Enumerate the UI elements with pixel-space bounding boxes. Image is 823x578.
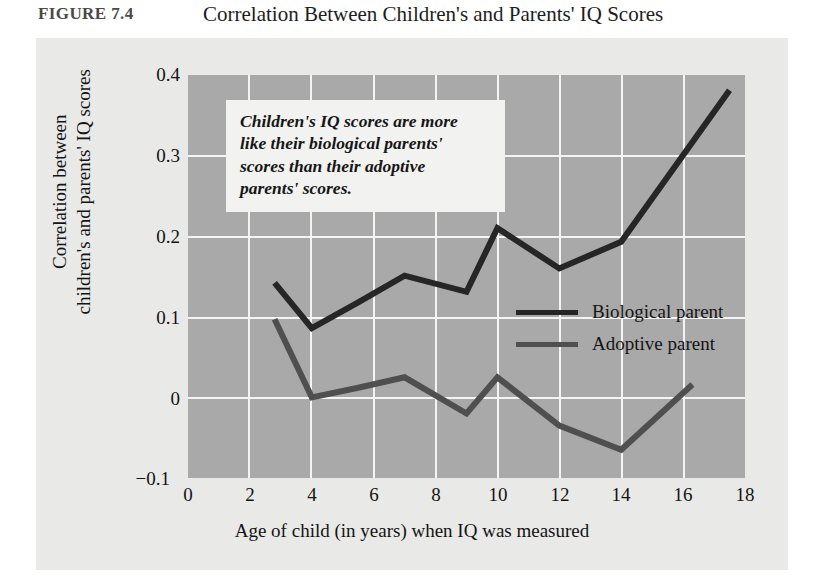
x-tick-6: 12 xyxy=(540,484,580,506)
y-axis-label: Correlation between children's and paren… xyxy=(48,42,96,342)
y-tick-3: 0.1 xyxy=(110,307,180,329)
figure-label: FIGURE 7.4 xyxy=(38,4,134,24)
annotation-line-1: Children's IQ scores are more xyxy=(240,110,493,132)
x-tick-0: 0 xyxy=(168,484,208,506)
legend-item-adoptive: Adoptive parent xyxy=(516,328,723,360)
x-tick-9: 18 xyxy=(725,484,765,506)
y-tick-0: 0.4 xyxy=(110,64,180,86)
y-axis-label-line1: Correlation between xyxy=(48,42,72,342)
x-axis-label: Age of child (in years) when IQ was meas… xyxy=(36,520,788,542)
y-tick-5: −0.1 xyxy=(100,468,170,490)
legend-label-biological: Biological parent xyxy=(592,301,723,323)
x-tick-8: 16 xyxy=(663,484,703,506)
x-tick-7: 14 xyxy=(601,484,641,506)
annotation-line-4: parents' scores. xyxy=(240,177,493,199)
annotation-callout: Children's IQ scores are more like their… xyxy=(226,100,505,212)
legend-swatch-adoptive-icon xyxy=(516,342,578,347)
legend-item-biological: Biological parent xyxy=(516,296,723,328)
x-tick-2: 4 xyxy=(292,484,332,506)
x-tick-4: 8 xyxy=(416,484,456,506)
figure-page: FIGURE 7.4 Correlation Between Children'… xyxy=(0,0,823,578)
legend-label-adoptive: Adoptive parent xyxy=(592,333,715,355)
y-axis-label-line2: children's and parents' IQ scores xyxy=(72,42,96,342)
annotation-line-3: scores than their adoptive xyxy=(240,155,493,177)
legend-swatch-biological-icon xyxy=(516,310,578,315)
y-tick-4: 0 xyxy=(110,388,180,410)
x-tick-5: 10 xyxy=(478,484,518,506)
y-tick-1: 0.3 xyxy=(110,145,180,167)
figure-title: Correlation Between Children's and Paren… xyxy=(203,2,663,27)
y-tick-2: 0.2 xyxy=(110,226,180,248)
x-tick-1: 2 xyxy=(230,484,270,506)
chart-legend: Biological parent Adoptive parent xyxy=(516,296,723,360)
x-tick-3: 6 xyxy=(354,484,394,506)
annotation-line-2: like their biological parents' xyxy=(240,132,493,154)
